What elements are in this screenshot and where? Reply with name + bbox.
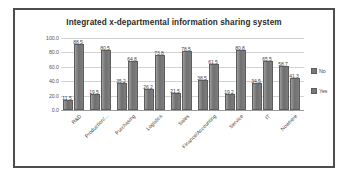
bar-group: 11.588.5 xyxy=(61,38,88,110)
bar-group: 19.280.8 xyxy=(223,38,250,110)
bar-group: 35.264.8 xyxy=(115,38,142,110)
x-axis-category-label: Production/... xyxy=(83,113,109,139)
chart-container: Integrated x-departmental information sh… xyxy=(13,8,335,168)
x-axis-category-label: Purchasing xyxy=(113,113,136,136)
chart-legend: No Yes xyxy=(311,68,345,108)
bar-yes[interactable] xyxy=(198,80,208,110)
bar-value-label: 58.7 xyxy=(272,61,294,67)
bar-group: 19.580.5 xyxy=(88,38,115,110)
bar-value-label: 64.8 xyxy=(121,56,143,62)
bar-no[interactable] xyxy=(74,44,84,110)
bar-value-label: 80.5 xyxy=(94,45,116,51)
legend-swatch-no xyxy=(311,68,317,74)
x-axis-category-label: Nowhere xyxy=(279,113,298,132)
chart-title: Integrated x-departmental information sh… xyxy=(15,18,333,27)
bar-value-label: 80.8 xyxy=(229,45,251,51)
x-axis-category-label: R&D xyxy=(70,113,82,125)
x-axis: R&DProduction/...PurchasingLogisticsSale… xyxy=(61,111,304,163)
bar-no[interactable] xyxy=(290,78,300,110)
legend-item-no[interactable]: No xyxy=(311,68,345,74)
bar-value-label: 88.5 xyxy=(67,39,89,45)
x-axis-category-label: Sales xyxy=(177,113,190,126)
legend-item-yes[interactable]: Yes xyxy=(311,88,345,94)
x-axis-category-label: Service xyxy=(227,113,243,129)
y-axis-tick-label: 100.0 xyxy=(46,35,59,41)
bar-no[interactable] xyxy=(155,55,165,110)
bar-yes[interactable] xyxy=(252,83,262,110)
bar-value-label: 61.5 xyxy=(202,59,224,65)
bar-yes[interactable] xyxy=(63,100,73,110)
legend-label-yes: Yes xyxy=(319,88,327,94)
bar-yes[interactable] xyxy=(144,89,154,110)
y-axis-tick-label: 60.0 xyxy=(49,64,59,70)
bar-yes[interactable] xyxy=(171,93,181,110)
x-axis-category-label: IT xyxy=(263,113,271,121)
legend-label-no: No xyxy=(319,68,326,74)
y-axis: 0.020.040.060.080.0100.0 xyxy=(29,38,59,110)
bar-group: 21.578.5 xyxy=(169,38,196,110)
bar-value-label: 78.5 xyxy=(175,46,197,52)
bar-value-label: 73.8 xyxy=(148,50,170,56)
bar-group: 38.561.5 xyxy=(196,38,223,110)
y-axis-tick-label: 40.0 xyxy=(49,78,59,84)
bar-group: 34.565.5 xyxy=(250,38,277,110)
y-axis-tick-label: 80.0 xyxy=(49,49,59,55)
bar-no[interactable] xyxy=(263,61,273,110)
bar-no[interactable] xyxy=(209,64,219,110)
bar-value-label: 41.3 xyxy=(283,73,305,79)
x-axis-category-label: Logistics xyxy=(144,113,163,132)
bar-group: 58.741.3 xyxy=(277,38,304,110)
y-axis-tick-label: 0.0 xyxy=(52,107,59,113)
bar-group: 26.273.8 xyxy=(142,38,169,110)
bar-yes[interactable] xyxy=(225,94,235,110)
bar-yes[interactable] xyxy=(117,83,127,110)
legend-swatch-yes xyxy=(311,88,317,94)
bar-yes[interactable] xyxy=(90,94,100,110)
plot-area: 11.588.519.580.535.264.826.273.821.578.5… xyxy=(61,38,304,110)
